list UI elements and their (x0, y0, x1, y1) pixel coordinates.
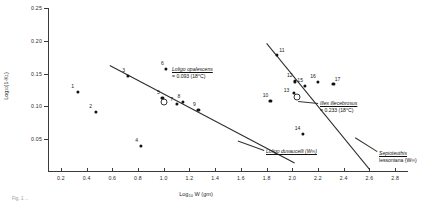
y-tick (44, 8, 48, 9)
x-tick (112, 168, 113, 172)
x-tick (267, 168, 268, 172)
y-tick (44, 139, 48, 140)
x-tick-label: 2.4 (340, 175, 348, 181)
data-point-label: 10 (263, 92, 269, 98)
data-point-label: 7 (170, 96, 173, 102)
plot-area: 0.050.100.150.200.250.20.40.60.81.01.21.… (48, 8, 408, 172)
x-tick (164, 168, 165, 172)
data-point (197, 108, 200, 111)
annotation-value: lessoniana (W∞) (379, 157, 417, 164)
data-point-label: 17 (335, 76, 341, 82)
data-point-label: 9 (193, 101, 196, 107)
x-tick (318, 168, 319, 172)
y-tick (44, 41, 48, 42)
data-point (126, 74, 129, 77)
x-tick-label: 1.8 (263, 175, 271, 181)
x-axis-line (48, 171, 408, 172)
x-tick-label: 0.8 (134, 175, 142, 181)
data-point (76, 90, 79, 93)
data-point (269, 100, 272, 103)
annotation-loligo-opalescens: Loligo opalescens= 0.093 (18°C) (172, 66, 213, 79)
data-point-open (160, 99, 167, 106)
y-tick (44, 74, 48, 75)
x-tick (215, 168, 216, 172)
data-point-label: 11 (279, 47, 284, 53)
annotation-value: = 0.093 (18°C) (172, 73, 213, 80)
annotation-species: Illex illecebrosus (320, 100, 357, 107)
data-point-label: 2 (89, 103, 92, 109)
data-point-label: 15 (297, 77, 303, 83)
y-tick-label: 0.25 (31, 5, 42, 11)
x-tick (189, 168, 190, 172)
x-tick-label: 2.0 (288, 175, 296, 181)
data-point-label: 6 (161, 60, 164, 66)
x-axis-label: Log10 W (gm) (179, 191, 213, 198)
x-tick-label: 1.6 (237, 175, 245, 181)
data-point (316, 81, 319, 84)
y-tick-label: 0.05 (31, 136, 42, 142)
data-point (94, 110, 97, 113)
annotation-loligo-duvaucelli: Loligo duvaucelli (W∞) (266, 148, 317, 155)
x-tick (87, 168, 88, 172)
figure-caption: Fig. 1 ... (12, 196, 29, 201)
data-point-open (294, 94, 301, 101)
x-tick-label: 0.6 (108, 175, 116, 181)
annotation-value: = 0.233 (18°C) (320, 107, 357, 114)
y-axis-label: Log10(1-K1) (3, 72, 10, 99)
data-point (181, 100, 184, 103)
annotation-species: Loligo duvaucelli (W∞) (266, 148, 317, 155)
annotation-illex-illecebrosus: Illex illecebrosus= 0.233 (18°C) (320, 100, 357, 113)
data-point-label: 16 (310, 73, 316, 79)
data-point (139, 144, 142, 147)
data-point-label: 13 (284, 87, 290, 93)
x-tick (241, 168, 242, 172)
x-tick (395, 168, 396, 172)
data-point-label: 12 (287, 72, 293, 78)
x-tick (292, 168, 293, 172)
x-tick-label: 2.8 (391, 175, 399, 181)
x-tick-label: 0.2 (57, 175, 65, 181)
data-point-label: 14 (295, 125, 301, 131)
data-point-label: 1 (71, 83, 74, 89)
data-point (293, 80, 296, 83)
data-point (301, 132, 304, 135)
figure-root: 0.050.100.150.200.250.20.40.60.81.01.21.… (0, 0, 434, 209)
data-point (304, 84, 307, 87)
annotation-species: Loligo opalescens (172, 66, 213, 73)
data-point-label: 4 (135, 137, 138, 143)
x-tick-label: 1.0 (160, 175, 168, 181)
data-point (332, 83, 335, 86)
annotation-sepioteuthis-lessoniana: Sepioteuthislessoniana (W∞) (379, 150, 417, 163)
x-tick (61, 168, 62, 172)
y-tick-label: 0.20 (31, 38, 42, 44)
x-tick-label: 1.4 (211, 175, 219, 181)
y-tick-label: 0.10 (31, 103, 42, 109)
data-point-label: 8 (178, 93, 181, 99)
data-point-label: 5 (157, 89, 160, 95)
x-tick (344, 168, 345, 172)
x-tick-label: 0.4 (83, 175, 91, 181)
y-tick (44, 106, 48, 107)
x-tick (138, 168, 139, 172)
x-tick-label: 2.2 (314, 175, 322, 181)
x-tick-label: 1.2 (186, 175, 194, 181)
y-tick-label: 0.15 (31, 71, 42, 77)
data-point (175, 102, 178, 105)
data-point-label: 3 (122, 67, 125, 73)
x-tick-label: 2.6 (366, 175, 374, 181)
y-axis-line (48, 8, 49, 172)
data-point (165, 67, 168, 70)
